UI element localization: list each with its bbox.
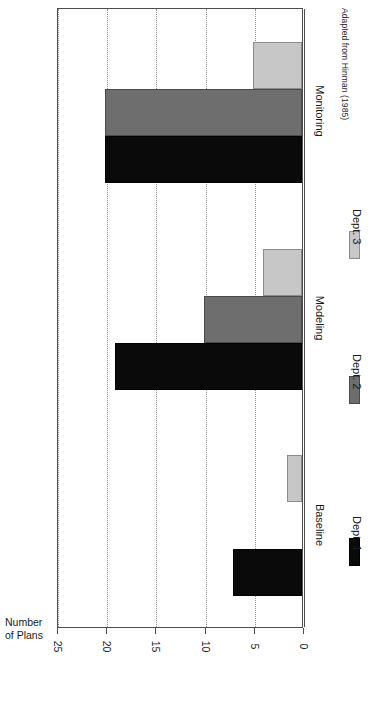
tick-label-20: 20 [100,637,113,657]
legend-label-1: Dept. 1 [351,516,363,551]
gridline-0 [304,9,305,627]
tickmark-0 [303,628,304,634]
category-label-monitoring: Monitoring [313,66,327,156]
bar-monitoring-dept-2 [105,89,302,136]
plot-area [57,8,303,628]
category-label-modeling: Modeling [313,273,327,363]
tick-label-15: 15 [149,637,162,657]
tick-label-0: 0 [297,637,310,657]
bar-monitoring-dept-3 [253,42,302,89]
tickmark-25 [57,628,58,634]
tick-label-25: 25 [51,637,64,657]
bar-modeling-dept-1 [115,343,302,390]
tickmark-5 [254,628,255,634]
attribution-note: Adapted from Hinman (1985) [338,8,352,158]
tick-label-5: 5 [247,637,260,657]
value-axis-title: Number of Plans [5,616,43,641]
tick-label-10: 10 [198,637,211,657]
legend-label-2: Dept. 2 [351,354,363,389]
bar-monitoring-dept-1 [105,136,302,183]
legend-label-3: Dept. 3 [351,209,363,244]
bar-baseline-dept-3 [287,455,302,502]
value-axis-title-line2: of Plans [5,629,43,641]
bar-baseline-dept-1 [233,549,302,596]
tickmark-15 [155,628,156,634]
gridline-25 [58,9,59,627]
value-axis-title-line1: Number [5,616,42,628]
bar-modeling-dept-3 [263,249,302,296]
category-label-baseline: Baseline [313,480,327,570]
bar-modeling-dept-2 [204,296,302,343]
tickmark-10 [205,628,206,634]
tickmark-20 [106,628,107,634]
chart-canvas: Adapted from Hinman (1985) Number of Pla… [0,0,376,703]
